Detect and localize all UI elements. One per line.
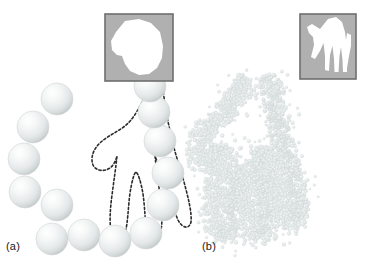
dot-marker xyxy=(309,188,311,190)
dot-marker xyxy=(268,124,272,128)
dot-marker xyxy=(273,236,276,239)
dot-marker xyxy=(242,90,246,94)
dot-marker xyxy=(248,211,250,213)
dot-marker xyxy=(257,159,260,162)
dot-marker xyxy=(229,162,232,165)
dot-marker xyxy=(267,85,270,88)
dot-marker xyxy=(242,232,245,235)
sphere-marker xyxy=(99,225,131,257)
dot-marker xyxy=(217,90,220,93)
dot-marker xyxy=(239,235,242,238)
dot-marker xyxy=(205,201,209,205)
dot-marker xyxy=(264,194,267,197)
dot-marker xyxy=(298,201,302,205)
dot-marker xyxy=(213,174,215,176)
dot-marker xyxy=(203,219,206,222)
dot-marker xyxy=(275,167,278,170)
dot-marker xyxy=(230,241,233,244)
dot-marker xyxy=(248,238,251,241)
dot-marker xyxy=(240,104,243,107)
dot-marker xyxy=(287,119,291,123)
dot-marker xyxy=(288,229,291,232)
dot-marker xyxy=(232,155,235,158)
dot-marker xyxy=(296,107,299,110)
dot-marker xyxy=(254,97,258,101)
dot-marker xyxy=(299,190,302,193)
dot-marker xyxy=(260,90,263,93)
dot-marker xyxy=(224,222,227,225)
dot-marker xyxy=(229,184,232,187)
dot-marker xyxy=(227,74,230,77)
dot-marker xyxy=(225,146,228,149)
panel-a xyxy=(8,14,191,257)
dot-marker xyxy=(288,242,291,245)
dot-marker xyxy=(221,186,224,189)
dot-marker xyxy=(258,105,261,108)
dot-marker xyxy=(236,224,239,227)
dot-marker xyxy=(251,207,255,211)
dot-marker xyxy=(280,70,283,73)
dot-marker xyxy=(298,206,300,208)
dot-marker xyxy=(237,219,240,222)
dot-marker xyxy=(286,169,289,172)
dot-marker xyxy=(254,141,256,143)
dot-marker xyxy=(234,185,236,187)
dot-marker xyxy=(258,139,261,142)
dot-marker xyxy=(264,243,267,246)
dot-marker xyxy=(239,222,243,226)
dot-marker xyxy=(266,184,269,187)
dot-marker xyxy=(280,109,283,112)
dot-marker xyxy=(225,122,228,125)
dot-marker xyxy=(256,200,259,203)
dot-marker xyxy=(288,103,291,106)
dot-marker xyxy=(218,210,221,213)
dot-marker xyxy=(200,207,203,210)
dot-marker xyxy=(236,93,239,96)
dot-marker xyxy=(283,110,285,112)
dot-marker xyxy=(233,163,237,167)
dot-marker xyxy=(188,131,192,135)
sphere-marker xyxy=(68,219,100,251)
dot-marker xyxy=(294,153,298,157)
dot-marker xyxy=(241,217,244,220)
dot-marker xyxy=(248,214,251,217)
dot-marker xyxy=(262,219,265,222)
sphere-marker xyxy=(147,189,179,221)
dot-marker xyxy=(257,217,260,220)
dot-marker xyxy=(268,179,271,182)
dot-marker xyxy=(212,134,216,138)
dot-marker xyxy=(243,241,246,244)
dot-marker xyxy=(222,207,226,211)
dot-marker xyxy=(263,180,266,183)
dot-marker xyxy=(214,211,217,214)
dot-marker xyxy=(283,179,286,182)
figure-container: (a) (b) xyxy=(0,0,372,267)
dot-marker xyxy=(211,114,214,117)
dot-marker xyxy=(286,73,289,76)
dot-marker xyxy=(294,167,297,170)
dot-marker xyxy=(202,136,205,139)
dot-marker xyxy=(240,99,243,102)
dot-marker xyxy=(215,183,219,187)
dot-marker xyxy=(229,210,232,213)
dot-marker xyxy=(255,188,257,190)
dot-marker xyxy=(230,87,233,90)
dot-marker xyxy=(242,237,245,240)
dot-marker xyxy=(253,90,255,92)
dot-marker xyxy=(205,236,208,239)
dot-marker xyxy=(300,197,304,201)
dot-marker xyxy=(249,164,251,166)
dot-marker xyxy=(282,223,285,226)
dot-marker xyxy=(274,104,277,107)
dot-marker xyxy=(209,137,211,139)
dot-marker xyxy=(306,215,309,218)
dot-marker xyxy=(277,220,280,223)
dot-marker xyxy=(254,84,258,88)
dot-marker xyxy=(233,79,236,82)
dot-marker xyxy=(225,203,229,207)
dot-marker xyxy=(298,209,301,212)
dot-marker xyxy=(269,133,272,136)
dot-marker xyxy=(229,216,232,219)
dot-marker xyxy=(281,130,284,133)
inset-silhouette-a xyxy=(105,14,173,81)
